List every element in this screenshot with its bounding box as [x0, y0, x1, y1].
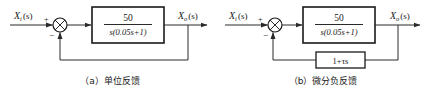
plus-sign-b: +	[258, 15, 263, 24]
forward-transfer-block-a: 50 s(0.05s+1)	[92, 7, 164, 43]
forward-numerator-a: 50	[123, 13, 133, 23]
input-label-a: Xi(s)	[13, 10, 32, 22]
caption-a: （a）单位反馈	[80, 75, 140, 86]
diagram-a-unit-feedback: Xi(s) + − 50 s(0.05s+1) Xo(s) （a）单位反馈	[10, 7, 207, 86]
block-diagrams: Xi(s) + − 50 s(0.05s+1) Xo(s) （a）单位反馈	[0, 0, 430, 95]
output-label-b: Xo(s)	[389, 10, 410, 22]
forward-numerator-b: 50	[334, 13, 344, 23]
forward-transfer-block-b: 50 s(0.05s+1)	[303, 7, 375, 43]
diagram-b-derivative-feedback: Xi(s) + − 50 s(0.05s+1) Xo(s) 1+τs （b）微分…	[225, 7, 420, 86]
plus-sign-a: +	[44, 15, 49, 24]
minus-sign-a: −	[49, 30, 54, 40]
feedback-block-b: 1+τs	[316, 52, 365, 68]
summing-junction-b	[268, 18, 282, 32]
minus-sign-b: −	[263, 30, 268, 40]
forward-denominator-a: s(0.05s+1)	[109, 27, 146, 37]
forward-denominator-b: s(0.05s+1)	[320, 27, 357, 37]
summing-junction-a	[53, 18, 67, 32]
caption-b: （b）微分负反馈	[289, 75, 358, 86]
output-label-a: Xo(s)	[177, 10, 198, 22]
input-label-b: Xi(s)	[228, 10, 247, 22]
feedback-expression-b: 1+τs	[333, 56, 349, 66]
